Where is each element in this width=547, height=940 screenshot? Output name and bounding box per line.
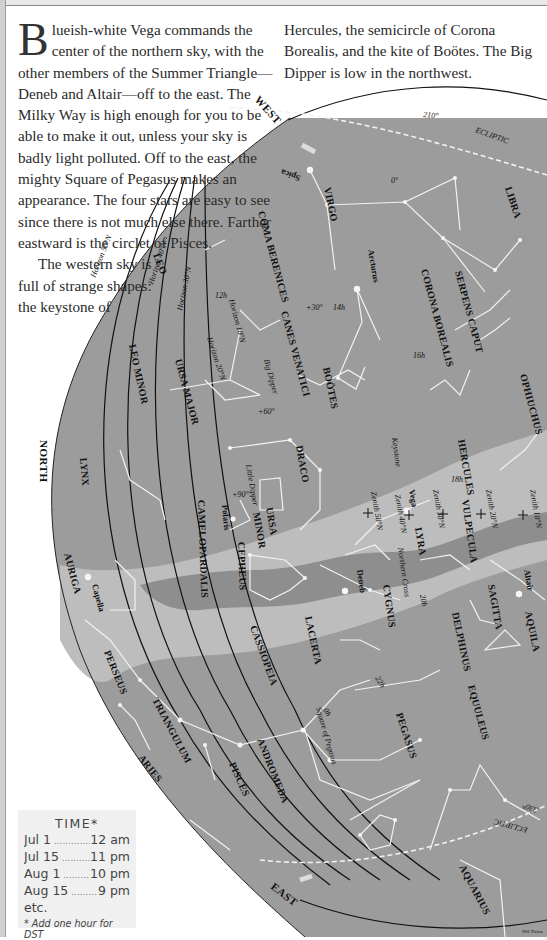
star-spica <box>307 167 313 173</box>
drop-cap: B <box>18 21 49 58</box>
label-dec-30: +30° <box>306 303 323 312</box>
star-deneb <box>342 588 348 594</box>
time-box: TIME* Jul 112 am Jul 1511 pm Aug 110 pm … <box>18 810 136 928</box>
article-column-right: Hercules, the semicircle of Corona Borea… <box>284 19 534 83</box>
time-etc: etc. <box>24 900 130 916</box>
credit: Wil Tirion <box>522 929 543 934</box>
paragraph-2-left: The western sky is full of strange shape… <box>18 253 158 317</box>
time-row: Aug 110 pm <box>24 866 130 883</box>
article-column-left: Blueish-white Vega commands the center o… <box>18 19 283 317</box>
label-dec-60: +60° <box>258 407 275 416</box>
label-cepheus: CEPHEUS <box>236 542 249 591</box>
star-altair <box>516 591 522 597</box>
label-ra-16h: 16h <box>413 351 425 360</box>
paragraph-1: lueish-white Vega commands the center of… <box>18 21 272 251</box>
time-note: * Add one hour for DST <box>24 918 130 940</box>
label-ra-14h: 14h <box>333 303 345 312</box>
label-dec-0: 0° <box>391 176 399 185</box>
time-row: Aug 159 pm <box>24 883 130 900</box>
time-row: Jul 1511 pm <box>24 849 130 866</box>
time-title: TIME* <box>24 816 130 831</box>
time-row: Jul 112 am <box>24 832 130 849</box>
star-arcturus <box>354 286 360 292</box>
paragraph-2-right: Hercules, the semicircle of Corona Borea… <box>284 19 534 83</box>
direction-north: NORTH <box>38 440 50 482</box>
star-capella <box>85 574 91 580</box>
label-ra-18h: 18h <box>451 475 463 484</box>
label-ecliptic-210: 210° <box>423 110 440 120</box>
label-dec-90: +90° <box>232 490 249 499</box>
